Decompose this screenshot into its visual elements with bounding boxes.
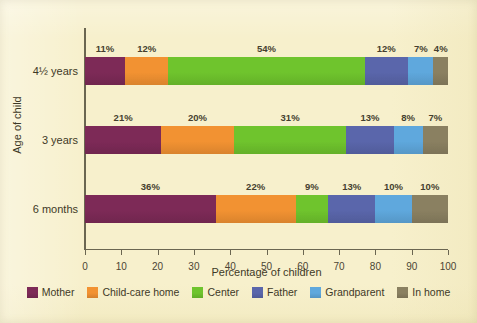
legend-swatch <box>310 287 321 298</box>
bar-row: 36%22%9%13%10%10% <box>85 195 448 223</box>
bar-segment-value-label: 31% <box>281 112 300 123</box>
bar-segment[interactable] <box>85 195 216 223</box>
bar-segment-value-label: 10% <box>420 181 439 192</box>
bar-segment-value-label: 21% <box>114 112 133 123</box>
category-label: 6 months <box>33 203 78 215</box>
legend: MotherChild-care homeCenterFatherGrandpa… <box>0 286 477 298</box>
bar-segment[interactable] <box>408 57 433 85</box>
x-axis-tick <box>267 250 268 255</box>
legend-label: Grandparent <box>325 286 384 298</box>
bar-segment[interactable] <box>161 126 234 154</box>
legend-label: Father <box>267 286 297 298</box>
bar-segment[interactable] <box>394 126 423 154</box>
legend-item[interactable]: Father <box>252 286 297 298</box>
legend-swatch <box>192 287 203 298</box>
bar-segment[interactable] <box>433 57 448 85</box>
x-axis-tick <box>85 250 86 255</box>
category-label: 4½ years <box>33 65 78 77</box>
bar-segment[interactable] <box>375 195 411 223</box>
x-axis-tick <box>448 250 449 255</box>
bar-segment[interactable] <box>346 126 393 154</box>
bar-segment[interactable] <box>168 57 364 85</box>
bar-segment-value-label: 12% <box>137 43 156 54</box>
bar-segment[interactable] <box>296 195 329 223</box>
bar-segment-value-label: 54% <box>257 43 276 54</box>
legend-label: Mother <box>42 286 75 298</box>
chart-figure: Age of child 4½ years3 years6 months 010… <box>0 0 477 323</box>
x-axis-tick <box>375 250 376 255</box>
bar-segment[interactable] <box>412 195 448 223</box>
legend-item[interactable]: Center <box>192 286 239 298</box>
x-axis-tick <box>339 250 340 255</box>
bar-segment-value-label: 12% <box>377 43 396 54</box>
bar-segment-value-label: 7% <box>428 112 442 123</box>
bar-segment-value-label: 36% <box>141 181 160 192</box>
x-axis-tick <box>230 250 231 255</box>
legend-swatch <box>397 287 408 298</box>
category-label-column: 4½ years3 years6 months <box>0 28 78 250</box>
legend-item[interactable]: Mother <box>27 286 75 298</box>
x-axis-tick <box>412 250 413 255</box>
bar-row: 21%20%31%13%8%7% <box>85 126 448 154</box>
bar-segment[interactable] <box>85 126 161 154</box>
bar-segment-value-label: 8% <box>401 112 415 123</box>
x-axis-tick <box>194 250 195 255</box>
legend-label: In home <box>412 286 450 298</box>
bar-segment-value-label: 13% <box>360 112 379 123</box>
category-label: 3 years <box>42 134 78 146</box>
legend-swatch <box>87 287 98 298</box>
bar-segment-value-label: 7% <box>414 43 428 54</box>
legend-item[interactable]: Grandparent <box>310 286 384 298</box>
x-axis-tick <box>303 250 304 255</box>
legend-label: Center <box>207 286 239 298</box>
x-axis-title: Percentage of children <box>85 266 448 278</box>
x-axis-tick <box>121 250 122 255</box>
bar-row: 11%12%54%12%7%4% <box>85 57 448 85</box>
legend-swatch <box>252 287 263 298</box>
bar-segment[interactable] <box>423 126 448 154</box>
bar-segment-value-label: 4% <box>434 43 448 54</box>
legend-item[interactable]: Child-care home <box>87 286 179 298</box>
bar-segment-value-label: 13% <box>342 181 361 192</box>
bar-segment[interactable] <box>328 195 375 223</box>
bar-segment-value-label: 9% <box>305 181 319 192</box>
legend-swatch <box>27 287 38 298</box>
plot-area: 0102030405060708090100 11%12%54%12%7%4%2… <box>85 28 448 250</box>
bar-segment[interactable] <box>125 57 169 85</box>
bar-segment-value-label: 22% <box>246 181 265 192</box>
x-axis-tick <box>158 250 159 255</box>
bar-segment-value-label: 10% <box>384 181 403 192</box>
legend-label: Child-care home <box>102 286 179 298</box>
legend-item[interactable]: In home <box>397 286 450 298</box>
bar-segment[interactable] <box>216 195 296 223</box>
bar-segment-value-label: 20% <box>188 112 207 123</box>
bar-segment[interactable] <box>85 57 125 85</box>
bar-segment[interactable] <box>234 126 347 154</box>
bar-segment[interactable] <box>365 57 409 85</box>
bar-segment-value-label: 11% <box>96 43 115 54</box>
